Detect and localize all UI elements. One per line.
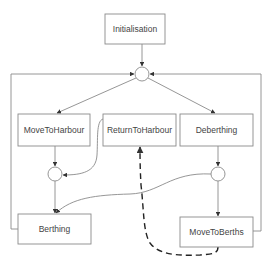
state-move-to-harbour[interactable]: MoveToHarbour [18,114,90,146]
edge-junction-top-to-move-to-harbour [57,78,136,113]
edge-junction-top-to-deberthing [148,78,215,113]
state-deberthing[interactable]: Deberthing [180,114,253,146]
state-initialisation[interactable]: Initialisation [105,14,165,44]
junction-top[interactable] [135,67,149,81]
edge-move-to-berths-to-junction-top [150,74,261,231]
state-berthing[interactable]: Berthing [18,214,91,244]
state-label: ReturnToHarbour [107,125,172,135]
state-return-to-harbour[interactable]: ReturnToHarbour [103,114,176,146]
state-label: MoveToBerths [189,227,243,237]
junction-left[interactable] [48,167,62,181]
junction-right[interactable] [211,167,225,181]
state-diagram: Initialisation MoveToHarbour ReturnToHar… [0,0,272,264]
state-move-to-berths[interactable]: MoveToBerths [180,217,253,247]
state-label: MoveToHarbour [24,125,85,135]
state-label: Berthing [39,224,71,234]
state-label: Initialisation [113,24,158,34]
edge-berthing-to-junction-top [11,74,134,229]
edge-junction-right-to-berthing [56,174,211,213]
state-label: Deberthing [196,125,238,135]
